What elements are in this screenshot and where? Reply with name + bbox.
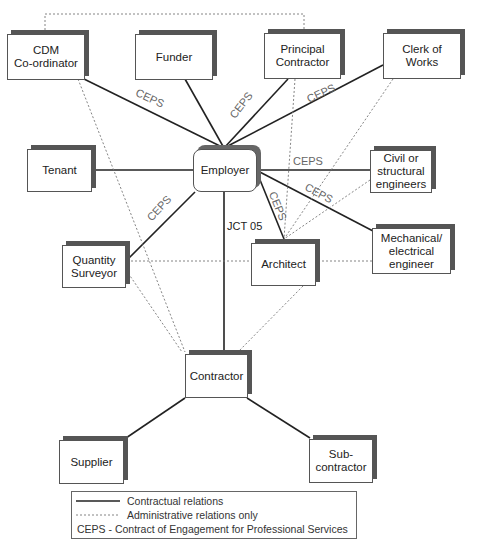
- node-subcontractor: Sub- contractor: [309, 439, 373, 483]
- node-mechanical-electrical-engineer: Mechanical/ electrical engineer: [372, 228, 451, 274]
- node-architect: Architect: [251, 243, 316, 286]
- node-tenant: Tenant: [27, 149, 92, 192]
- node-employer: Employer: [193, 149, 257, 192]
- dotted-qs-contractor: [126, 270, 182, 352]
- dotted-cdm-principal: [45, 14, 304, 34]
- dotted-cdm-contractor: [78, 79, 185, 352]
- node-principal-contractor: Principal Contractor: [264, 33, 341, 79]
- node-funder: Funder: [135, 34, 213, 80]
- line-cdm-employer: [84, 79, 224, 148]
- node-clerk-of-works: Clerk of Works: [383, 33, 461, 79]
- line-contractor-supplier: [126, 398, 185, 438]
- node-contractor: Contractor: [185, 354, 248, 398]
- line-contractor-sub: [247, 398, 310, 438]
- node-quantity-surveyor: Quantity Surveyor: [62, 245, 126, 288]
- legend-ceps-definition: CEPS - Contract of Engagement for Profes…: [77, 523, 348, 535]
- legend-administrative: Administrative relations only: [127, 509, 258, 521]
- label-jct-05: JCT 05: [227, 220, 262, 232]
- legend-contractual: Contractual relations: [127, 495, 223, 507]
- dotted-architect-contractor: [238, 286, 303, 352]
- node-cdm-coordinator: CDM Co-ordinator: [7, 34, 85, 80]
- label-ceps-civil: CEPS: [293, 155, 323, 167]
- dotted-civil-architect: [284, 180, 370, 239]
- node-supplier: Supplier: [59, 440, 124, 484]
- node-civil-engineers: Civil or structural engineers: [370, 150, 432, 193]
- legend: Contractual relations Administrative rel…: [71, 491, 357, 539]
